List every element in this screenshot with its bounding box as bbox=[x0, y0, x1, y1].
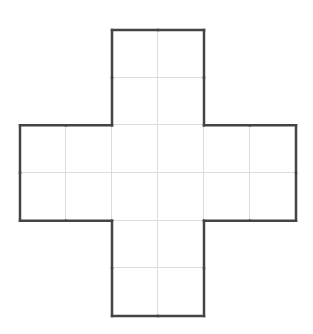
cross-outline bbox=[0, 0, 313, 334]
cross-grid-figure bbox=[0, 0, 313, 334]
